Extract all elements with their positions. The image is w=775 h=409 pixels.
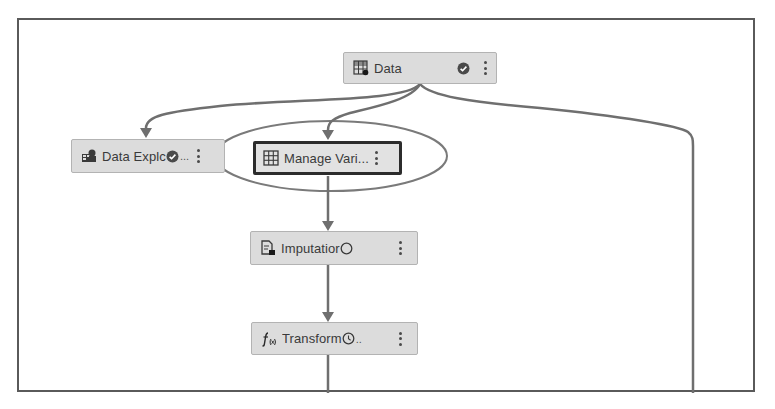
node-data[interactable]: Data	[343, 52, 497, 84]
more-options-icon[interactable]	[397, 332, 403, 346]
truncation-ellipsis: ..	[356, 333, 362, 345]
completed-check-icon	[457, 62, 470, 75]
more-options-icon[interactable]	[482, 61, 488, 75]
more-options-icon[interactable]	[397, 241, 403, 255]
data-exploration-icon	[81, 148, 97, 164]
node-label: Manage Vari...	[284, 151, 369, 166]
node-label: Imputatior	[281, 241, 340, 256]
node-label: Transform	[282, 331, 342, 346]
grid-table-icon	[263, 150, 279, 166]
imputation-icon	[260, 240, 276, 256]
pending-clock-icon	[342, 332, 355, 345]
more-options-icon[interactable]	[374, 151, 380, 165]
completed-check-icon	[166, 150, 179, 163]
node-manage-variables[interactable]: Manage Vari...	[253, 141, 402, 175]
function-icon	[261, 331, 277, 347]
pending-circle-icon	[340, 242, 353, 255]
node-data-exploration[interactable]: Data Explc ...	[71, 139, 225, 173]
node-label: Data Explc	[102, 149, 166, 164]
node-label: Data	[374, 61, 402, 76]
node-transformations[interactable]: Transform ..	[251, 322, 418, 355]
truncation-ellipsis: ...	[180, 150, 189, 162]
node-imputation[interactable]: Imputatior	[250, 231, 418, 265]
more-options-icon[interactable]	[195, 149, 201, 163]
data-table-icon	[353, 60, 369, 76]
